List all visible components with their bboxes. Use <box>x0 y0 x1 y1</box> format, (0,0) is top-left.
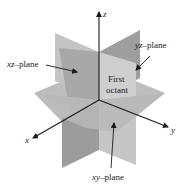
coordinate-planes-diagram: z x y xz–plane yz–plane xy–plane First o… <box>0 0 189 188</box>
diagram-canvas <box>0 0 189 188</box>
xz-plane-label-var: xz <box>7 59 15 69</box>
x-axis-label: x <box>25 136 29 145</box>
xy-plane-label-var: xy <box>92 172 100 182</box>
xz-plane-label-suffix: –plane <box>15 59 39 69</box>
y-axis-label: y <box>171 126 175 135</box>
yz-plane-label-var: yz <box>135 40 143 50</box>
xy-plane-label-suffix: –plane <box>100 172 124 182</box>
xy-plane-label: xy–plane <box>92 173 124 182</box>
z-axis-label: z <box>103 10 107 19</box>
yz-plane-label-suffix: –plane <box>143 40 167 50</box>
yz-plane-label: yz–plane <box>135 41 167 50</box>
first-octant-label-line2: octant <box>106 86 128 95</box>
xz-plane-label: xz–plane <box>7 60 39 69</box>
first-octant-label-line1: First <box>108 75 125 84</box>
